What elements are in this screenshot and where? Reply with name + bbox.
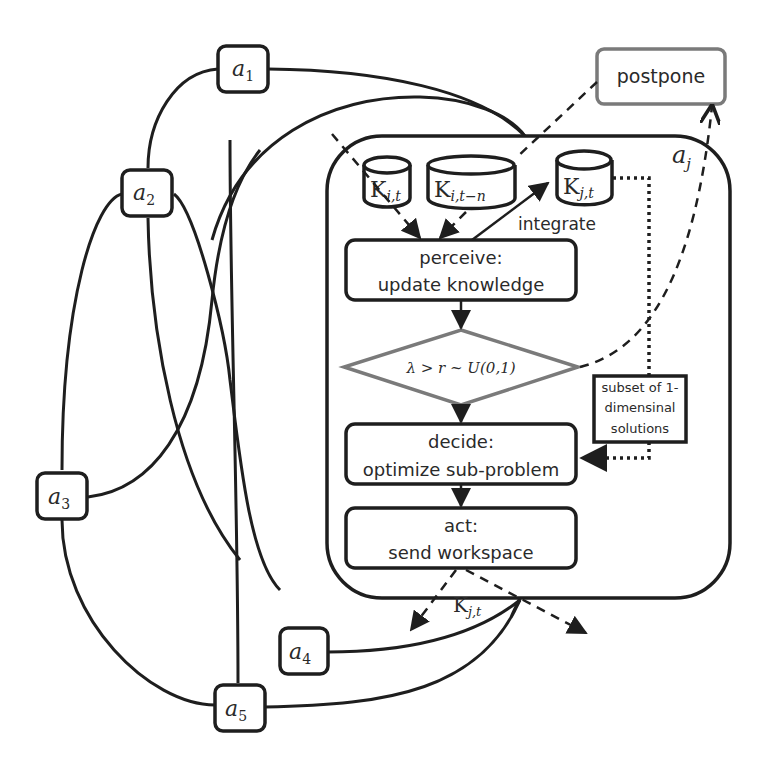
- condition-diamond[interactable]: λ > r ~ U(0,1): [344, 330, 578, 405]
- svg-text:update knowledge: update knowledge: [378, 274, 545, 295]
- act-box[interactable]: act: send workspace: [346, 508, 576, 568]
- edge-a3-a5: [62, 520, 215, 705]
- svg-text:act:: act:: [444, 515, 478, 536]
- decide-box[interactable]: decide: optimize sub-problem: [346, 424, 576, 484]
- svg-text:decide:: decide:: [428, 431, 494, 452]
- svg-text:postpone: postpone: [617, 65, 705, 87]
- edge-vertical-a5: [230, 140, 238, 683]
- agent-node-a5[interactable]: a5: [215, 685, 265, 731]
- edge-a2-a4: [174, 194, 280, 590]
- agent-node-a2[interactable]: a2: [122, 170, 172, 216]
- agent-node-a1[interactable]: a1: [218, 46, 268, 92]
- postpone-box[interactable]: postpone: [597, 49, 725, 104]
- svg-text:subset of 1-: subset of 1-: [602, 380, 679, 395]
- dashed-input-k-itn: [440, 212, 466, 238]
- svg-text:send workspace: send workspace: [388, 542, 533, 563]
- dashed-condition-to-postpone: [580, 106, 712, 367]
- svg-text:optimize sub-problem: optimize sub-problem: [363, 459, 559, 480]
- agent-node-a4[interactable]: a4: [280, 628, 328, 674]
- edge-a2-a3: [62, 194, 122, 470]
- agent-j-label: aj: [672, 141, 691, 173]
- agent-diagram: a1 a2 a3 a4 a5 aj postpone Ki,t Ki,t−n K…: [0, 0, 760, 767]
- svg-text:solutions: solutions: [611, 421, 669, 436]
- svg-text:dimensinal: dimensinal: [605, 400, 676, 415]
- agent-node-a3[interactable]: a3: [37, 473, 87, 519]
- integrate-label: integrate: [518, 214, 596, 234]
- knowledge-store-k-itn[interactable]: Ki,t−n: [428, 156, 515, 209]
- subset-solutions-box[interactable]: subset of 1- dimensinal solutions: [594, 376, 686, 442]
- knowledge-store-k-jt[interactable]: Kj,t: [557, 151, 612, 205]
- edge-a1-a2: [148, 69, 218, 168]
- edge-a1-aj: [268, 69, 525, 136]
- dashed-output-left: [411, 570, 456, 630]
- dashed-postpone-to-k-itn: [516, 82, 597, 158]
- svg-text:perceive:: perceive:: [419, 247, 502, 268]
- perceive-box[interactable]: perceive: update knowledge: [346, 240, 576, 300]
- svg-text:λ > r ~ U(0,1): λ > r ~ U(0,1): [405, 359, 515, 377]
